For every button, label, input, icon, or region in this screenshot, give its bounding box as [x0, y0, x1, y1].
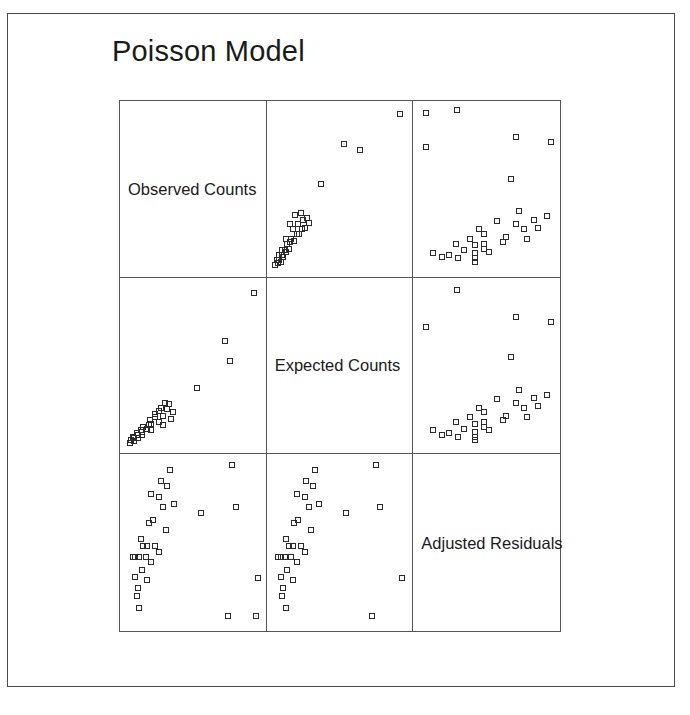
data-point	[373, 462, 379, 468]
data-point	[548, 319, 554, 325]
data-point	[446, 252, 452, 258]
data-point	[294, 491, 300, 497]
data-point	[481, 231, 487, 237]
data-point	[503, 413, 509, 419]
data-point	[156, 494, 162, 500]
data-point	[292, 212, 298, 218]
data-point	[318, 181, 324, 187]
data-point	[508, 354, 514, 360]
data-point	[454, 287, 460, 293]
data-point	[430, 427, 436, 433]
plot-area	[413, 278, 560, 454]
data-point	[494, 218, 500, 224]
data-point	[160, 413, 166, 419]
data-point	[278, 554, 284, 560]
plot-area	[267, 454, 413, 631]
plot-area	[267, 101, 413, 277]
data-point	[132, 554, 138, 560]
data-point	[152, 543, 158, 549]
data-point	[233, 504, 239, 510]
data-point	[229, 462, 235, 468]
data-point	[298, 543, 304, 549]
plot-area	[120, 278, 266, 454]
data-point	[144, 577, 150, 583]
data-point	[306, 504, 312, 510]
data-point	[516, 387, 522, 393]
data-point	[136, 605, 142, 611]
data-point	[369, 613, 375, 619]
data-point	[222, 338, 228, 344]
data-point	[503, 234, 509, 240]
data-point	[148, 427, 154, 433]
data-point	[524, 236, 530, 242]
data-point	[513, 221, 519, 227]
data-point	[461, 426, 467, 432]
plot-area	[413, 101, 560, 277]
data-point	[138, 536, 144, 542]
data-point	[170, 409, 176, 415]
data-point	[225, 613, 231, 619]
splom-scatter-panel	[413, 101, 560, 278]
data-point	[548, 139, 554, 145]
splom-scatter-panel	[413, 278, 560, 455]
data-point	[164, 483, 170, 489]
splom-scatter-panel	[267, 454, 414, 631]
data-point	[455, 255, 461, 261]
data-point	[310, 483, 316, 489]
data-point	[302, 549, 308, 555]
data-point	[486, 249, 492, 255]
data-point	[377, 504, 383, 510]
data-point	[160, 422, 166, 428]
variable-label: Observed Counts	[128, 179, 256, 199]
data-point	[194, 385, 200, 391]
data-point	[397, 111, 403, 117]
data-point	[295, 517, 301, 523]
data-point	[467, 414, 473, 420]
data-point	[227, 358, 233, 364]
data-point	[439, 432, 445, 438]
data-point	[255, 575, 261, 581]
data-point	[343, 510, 349, 516]
data-point	[481, 409, 487, 415]
data-point	[461, 247, 467, 253]
data-point	[287, 221, 293, 227]
data-point	[524, 414, 530, 420]
data-point	[294, 559, 300, 565]
scatterplot-matrix: Observed CountsExpected CountsAdjusted R…	[119, 100, 561, 632]
data-point	[303, 478, 309, 484]
data-point	[198, 510, 204, 516]
data-point	[140, 543, 146, 549]
data-point	[535, 403, 541, 409]
plot-area	[120, 454, 266, 631]
data-point	[430, 250, 436, 256]
data-point	[486, 427, 492, 433]
data-point	[251, 290, 257, 296]
data-point	[278, 574, 284, 580]
data-point	[423, 144, 429, 150]
splom-diagonal-cell: Expected Counts	[267, 278, 414, 455]
data-point	[134, 593, 140, 599]
data-point	[150, 517, 156, 523]
data-point	[284, 567, 290, 573]
data-point	[521, 226, 527, 232]
data-point	[423, 324, 429, 330]
data-point	[453, 241, 459, 247]
data-point	[508, 176, 514, 182]
data-point	[163, 527, 169, 533]
data-point	[298, 210, 304, 216]
data-point	[148, 491, 154, 497]
data-point	[423, 110, 429, 116]
data-point	[283, 536, 289, 542]
data-point	[132, 574, 138, 580]
data-point	[291, 238, 297, 244]
data-point	[521, 405, 527, 411]
data-point	[472, 255, 478, 261]
data-point	[158, 478, 164, 484]
data-point	[455, 434, 461, 440]
data-point	[341, 141, 347, 147]
data-point	[283, 605, 289, 611]
data-point	[171, 501, 177, 507]
data-point	[439, 254, 445, 260]
data-point	[143, 554, 149, 560]
data-point	[316, 501, 322, 507]
